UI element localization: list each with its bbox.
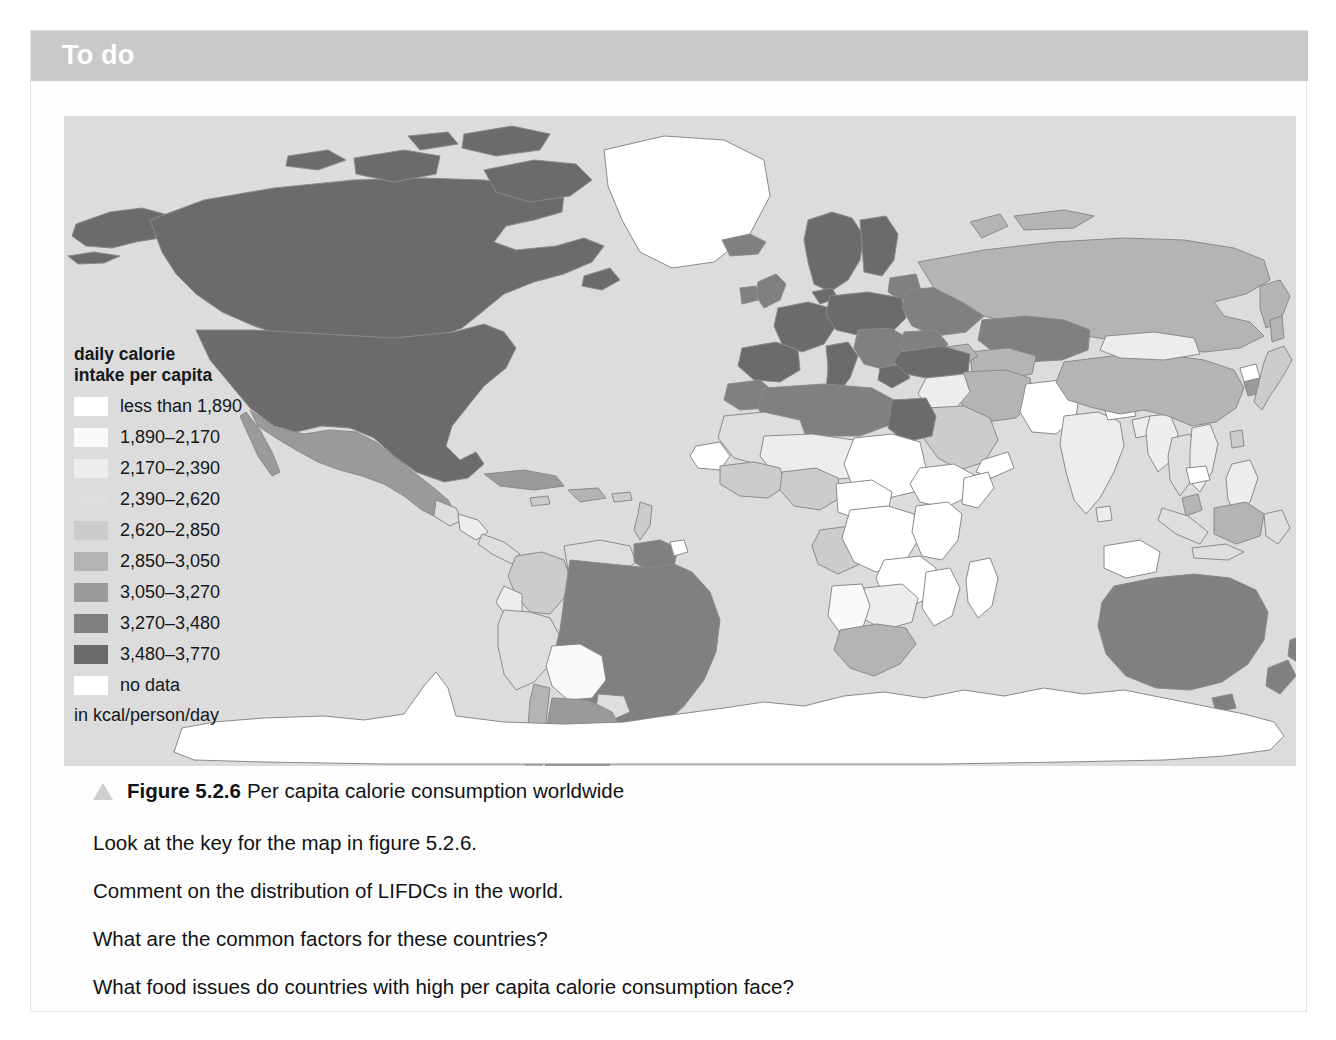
- legend-item-label: less than 1,890: [120, 396, 242, 417]
- to-do-header-bar: To do: [31, 31, 1308, 81]
- legend-item: 2,620–2,850: [74, 515, 304, 546]
- legend-item: 2,390–2,620: [74, 484, 304, 515]
- legend-title: daily calorie intake per capita: [74, 344, 304, 385]
- legend-item: 1,890–2,170: [74, 422, 304, 453]
- legend-item-label: 3,270–3,480: [120, 613, 220, 634]
- legend-swatch: [74, 676, 108, 695]
- legend-item: 3,480–3,770: [74, 639, 304, 670]
- legend-item: less than 1,890: [74, 391, 304, 422]
- legend-item: 2,850–3,050: [74, 546, 304, 577]
- to-do-title: To do: [62, 40, 134, 71]
- region-puerto-rico: [612, 492, 632, 502]
- legend-swatch: [74, 459, 108, 478]
- legend-swatch: [74, 552, 108, 571]
- region-zimbabwe-botswana: [862, 584, 918, 630]
- legend-item: 3,270–3,480: [74, 608, 304, 639]
- figure-caption-text: Per capita calorie consumption worldwide: [247, 779, 624, 803]
- task-line: What are the common factors for these co…: [93, 927, 548, 951]
- legend-title-line1: daily calorie: [74, 344, 304, 365]
- legend-swatch: [74, 614, 108, 633]
- legend-item-label: 3,480–3,770: [120, 644, 220, 665]
- legend-swatch: [74, 645, 108, 664]
- region-taiwan: [1230, 430, 1244, 448]
- region-mongolia: [1100, 332, 1200, 360]
- task-line: What food issues do countries with high …: [93, 975, 794, 999]
- legend-swatch: [74, 490, 108, 509]
- legend-item-label: 1,890–2,170: [120, 427, 220, 448]
- map-figure-panel: daily calorie intake per capita less tha…: [64, 116, 1296, 766]
- legend-swatch: [74, 583, 108, 602]
- legend-item: 3,050–3,270: [74, 577, 304, 608]
- task-line: Look at the key for the map in figure 5.…: [93, 831, 477, 855]
- triangle-up-icon: [93, 783, 113, 800]
- region-jamaica: [530, 496, 550, 506]
- legend-item: no data: [74, 670, 304, 701]
- legend-item-label: 2,850–3,050: [120, 551, 220, 572]
- region-sakhalin: [1270, 316, 1284, 342]
- legend-title-line2: intake per capita: [74, 365, 304, 386]
- map-legend: daily calorie intake per capita less tha…: [74, 344, 304, 726]
- legend-item-label: 2,390–2,620: [120, 489, 220, 510]
- figure-caption: Figure 5.2.6 Per capita calorie consumpt…: [93, 779, 624, 803]
- legend-swatch: [74, 428, 108, 447]
- to-do-card: To do: [30, 30, 1307, 1012]
- legend-swatch: [74, 397, 108, 416]
- task-line: Comment on the distribution of LIFDCs in…: [93, 879, 564, 903]
- legend-footer-unit: in kcal/person/day: [74, 705, 304, 726]
- legend-item-label: 2,170–2,390: [120, 458, 220, 479]
- legend-swatch: [74, 521, 108, 540]
- figure-number: Figure 5.2.6: [127, 779, 241, 803]
- legend-item: 2,170–2,390: [74, 453, 304, 484]
- region-sri-lanka: [1096, 506, 1112, 522]
- legend-item-label: 3,050–3,270: [120, 582, 220, 603]
- legend-item-label: no data: [120, 675, 180, 696]
- legend-item-label: 2,620–2,850: [120, 520, 220, 541]
